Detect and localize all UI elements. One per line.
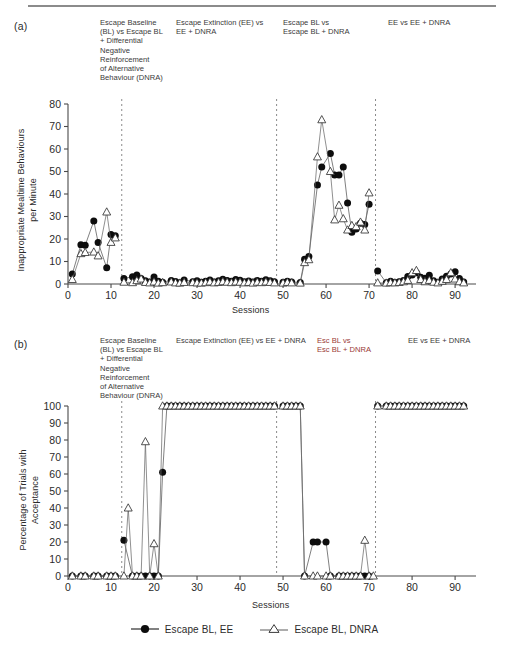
x-tick-label: 20 bbox=[148, 581, 160, 593]
panel-b-phase-header-3: Esc BL vs Esc BL + DNRA bbox=[317, 336, 409, 354]
x-tick-label: 50 bbox=[277, 289, 289, 301]
panel-b-plot: 0102030405060708090100010203040506070809… bbox=[0, 398, 508, 603]
x-tick-label: 0 bbox=[65, 289, 71, 301]
series-line bbox=[124, 406, 275, 576]
data-point-marker bbox=[318, 164, 325, 171]
panel-b-x-axis-title: Sessions bbox=[252, 600, 289, 610]
x-tick-label: 70 bbox=[363, 289, 375, 301]
y-tick-label: 90 bbox=[49, 417, 61, 429]
data-point-marker bbox=[361, 536, 369, 543]
page-top-rule bbox=[28, 5, 496, 7]
series-line bbox=[124, 406, 275, 576]
y-tick-label: 10 bbox=[49, 553, 61, 565]
x-tick-label: 80 bbox=[406, 581, 418, 593]
data-point-marker bbox=[103, 264, 110, 271]
panel-a-phase-header-3: Escape BL vs Escape BL + DNRA bbox=[283, 18, 375, 36]
legend-open-triangle-icon bbox=[259, 622, 289, 636]
y-tick-label: 60 bbox=[49, 468, 61, 480]
legend-filled-circle-icon bbox=[130, 622, 160, 636]
data-point-marker bbox=[68, 275, 76, 282]
x-tick-label: 0 bbox=[65, 581, 71, 593]
y-tick-label: 50 bbox=[49, 485, 61, 497]
x-tick-label: 40 bbox=[234, 289, 246, 301]
y-tick-label: 10 bbox=[49, 255, 61, 267]
y-tick-label: 60 bbox=[49, 143, 61, 155]
x-tick-label: 10 bbox=[105, 581, 117, 593]
data-point-marker bbox=[90, 218, 97, 225]
x-tick-label: 50 bbox=[277, 581, 289, 593]
data-point-marker bbox=[344, 200, 351, 207]
panel-b-letter: (b) bbox=[14, 338, 27, 350]
series-line bbox=[283, 154, 369, 283]
y-tick-label: 50 bbox=[49, 165, 61, 177]
y-tick-label: 40 bbox=[49, 502, 61, 514]
data-point-marker bbox=[339, 215, 347, 222]
x-tick-label: 60 bbox=[320, 581, 332, 593]
panel-a-x-axis-title: Sessions bbox=[232, 305, 269, 315]
panel-b-phase-header-1: Escape Baseline (BL) vs Escape BL + Diff… bbox=[100, 336, 172, 400]
data-point-marker bbox=[103, 208, 111, 215]
data-point-marker bbox=[159, 469, 166, 476]
data-point-marker bbox=[150, 540, 158, 547]
y-tick-label: 40 bbox=[49, 188, 61, 200]
data-point-marker bbox=[412, 266, 420, 273]
data-point-marker bbox=[374, 267, 381, 274]
data-point-marker bbox=[365, 189, 373, 196]
y-tick-label: 0 bbox=[55, 278, 61, 290]
x-tick-label: 30 bbox=[191, 289, 203, 301]
x-tick-label: 30 bbox=[191, 581, 203, 593]
series-line bbox=[283, 406, 373, 576]
y-tick-label: 80 bbox=[49, 434, 61, 446]
legend-item-escape-bl-ee: Escape BL, EE bbox=[130, 622, 234, 636]
x-tick-label: 90 bbox=[449, 581, 461, 593]
panel-a-letter: (a) bbox=[14, 20, 27, 32]
data-point-marker bbox=[335, 171, 342, 178]
x-tick-label: 10 bbox=[105, 289, 117, 301]
data-point-marker bbox=[361, 226, 369, 233]
data-point-marker bbox=[331, 216, 339, 223]
x-tick-label: 70 bbox=[363, 581, 375, 593]
x-tick-label: 60 bbox=[320, 289, 332, 301]
data-point-marker bbox=[313, 153, 321, 160]
x-tick-label: 90 bbox=[449, 289, 461, 301]
panel-b-phase-header-2: Escape Extinction (EE) vs EE + DNRA bbox=[176, 336, 336, 345]
series-line bbox=[283, 120, 369, 283]
x-tick-label: 80 bbox=[406, 289, 418, 301]
data-point-marker bbox=[340, 164, 347, 171]
figure-legend: Escape BL, EE Escape BL, DNRA bbox=[0, 622, 508, 636]
panel-a-phase-header-4: EE vs EE + DNRA bbox=[388, 18, 498, 27]
x-tick-label: 20 bbox=[148, 289, 160, 301]
panel-a-phase-header-1: Escape Baseline (BL) vs Escape BL + Diff… bbox=[100, 18, 172, 82]
panel-a-phase-header-2: Escape Extinction (EE) vs EE + DNRA bbox=[176, 18, 280, 36]
x-tick-label: 40 bbox=[234, 581, 246, 593]
data-point-marker bbox=[314, 539, 321, 546]
figure-root: (a) Escape Baseline (BL) vs Escape BL + … bbox=[0, 0, 508, 648]
panel-b-phase-header-4: EE vs EE + DNRA bbox=[408, 336, 508, 345]
data-point-marker bbox=[318, 116, 326, 123]
data-point-marker bbox=[124, 504, 132, 511]
y-tick-label: 70 bbox=[49, 451, 61, 463]
legend-item-escape-bl-dnra: Escape BL, DNRA bbox=[259, 622, 378, 636]
data-point-marker bbox=[323, 539, 330, 546]
y-tick-label: 20 bbox=[49, 536, 61, 548]
y-tick-label: 30 bbox=[49, 519, 61, 531]
y-tick-label: 0 bbox=[55, 570, 61, 582]
y-tick-label: 20 bbox=[49, 233, 61, 245]
y-tick-label: 30 bbox=[49, 210, 61, 222]
data-point-marker bbox=[120, 572, 128, 579]
data-point-marker bbox=[141, 438, 149, 445]
data-point-marker bbox=[335, 201, 343, 208]
panel-a-plot: 010203040506070800102030405060708090 bbox=[0, 96, 508, 316]
legend-label-escape-bl-ee: Escape BL, EE bbox=[165, 624, 234, 635]
series-line bbox=[283, 406, 369, 576]
y-tick-label: 70 bbox=[49, 120, 61, 132]
data-point-marker bbox=[366, 201, 373, 208]
legend-label-escape-bl-dnra: Escape BL, DNRA bbox=[294, 624, 378, 635]
data-point-marker bbox=[374, 279, 382, 286]
y-tick-label: 80 bbox=[49, 98, 61, 110]
y-tick-label: 100 bbox=[43, 400, 61, 412]
